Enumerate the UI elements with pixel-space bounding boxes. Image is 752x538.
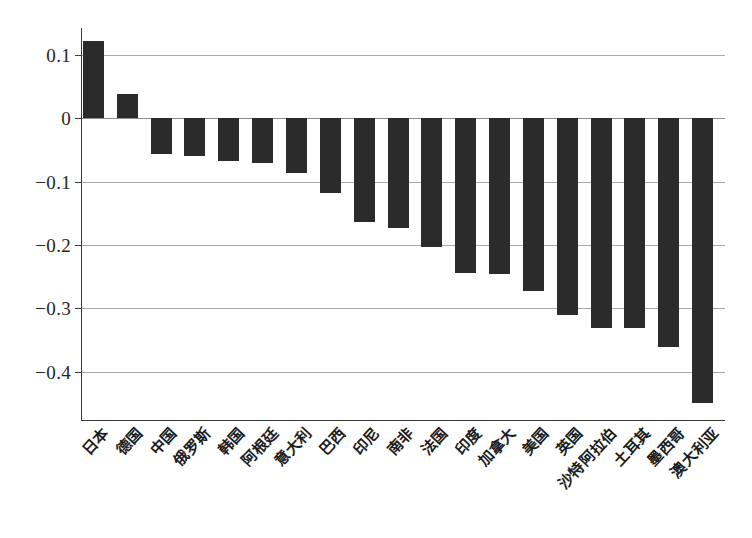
y-axis-tick-label: −0.2	[35, 235, 71, 254]
y-axis-tick-mark	[75, 308, 82, 309]
y-axis-tick-label: −0.4	[35, 362, 71, 381]
y-axis-tick-label: −0.1	[35, 172, 71, 191]
x-axis-tick-label: 土耳其	[611, 425, 654, 470]
bar	[388, 118, 409, 228]
y-axis-tick-mark	[75, 182, 82, 183]
x-axis-tick-label: 俄罗斯	[171, 425, 214, 470]
bar	[557, 118, 578, 315]
plot-frame: 0.10−0.1−0.2−0.3−0.4	[81, 28, 725, 421]
y-axis-tick-mark	[75, 245, 82, 246]
y-axis-tick-label: 0	[61, 109, 71, 128]
bar	[83, 41, 104, 118]
x-axis-tick-label: 巴西	[317, 425, 350, 458]
bar	[692, 118, 713, 403]
y-axis-tick-label: 0.1	[46, 45, 71, 64]
bar	[591, 118, 612, 328]
bar	[252, 118, 273, 162]
bar	[320, 118, 341, 193]
bar	[658, 118, 679, 347]
x-axis-tick-label: 美国	[520, 425, 553, 458]
gridline	[82, 55, 725, 56]
x-axis-tick-label: 日本	[80, 425, 113, 458]
x-axis-tick-label: 印尼	[351, 425, 384, 458]
bar	[218, 118, 239, 160]
x-axis-labels: 日本德国中国俄罗斯韩国阿根廷意大利巴西印尼南非法国印度加拿大美国英国沙特阿拉伯土…	[81, 425, 725, 535]
plot-area	[82, 28, 725, 420]
bar	[421, 118, 442, 247]
bar	[624, 118, 645, 328]
y-axis-tick-mark	[75, 372, 82, 373]
x-axis-tick-label: 德国	[114, 425, 147, 458]
bar	[151, 118, 172, 154]
y-axis-tick-mark	[75, 118, 82, 119]
bar	[455, 118, 476, 272]
x-axis-tick-label: 南非	[385, 425, 418, 458]
bar	[354, 118, 375, 222]
bar-chart: 0.10−0.1−0.2−0.3−0.4 日本德国中国俄罗斯韩国阿根廷意大利巴西…	[0, 0, 752, 538]
bar	[117, 94, 138, 119]
x-axis-tick-label: 法国	[419, 425, 452, 458]
gridline	[82, 372, 725, 373]
bar	[489, 118, 510, 274]
bar	[286, 118, 307, 173]
y-axis-tick-label: −0.3	[35, 299, 71, 318]
bar	[523, 118, 544, 291]
x-axis-tick-label: 加拿大	[476, 425, 519, 470]
bar	[184, 118, 205, 156]
y-axis-tick-mark	[75, 55, 82, 56]
